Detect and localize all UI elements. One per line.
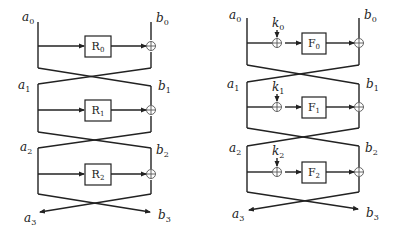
label-b3: b3: [366, 207, 379, 222]
round-label-r1: R1: [85, 105, 111, 118]
xor-icon: [355, 168, 364, 177]
label-b0: b0: [156, 12, 169, 27]
round-label-f1: F1: [301, 102, 327, 115]
key-label-k1: k1: [272, 81, 284, 96]
key-label-k0: k0: [272, 17, 284, 32]
label-a3: a3: [24, 212, 36, 227]
feistel-diagrams: [0, 0, 394, 234]
xor-icon: [147, 106, 156, 115]
round-label-r2: R2: [85, 169, 111, 182]
xor-icon: [273, 103, 282, 112]
xor-icon: [355, 103, 364, 112]
label-a0: a0: [229, 9, 241, 24]
label-b2: b2: [156, 144, 169, 159]
label-b2: b2: [365, 142, 378, 157]
label-a2: a2: [20, 141, 32, 156]
round-label-f0: F0: [301, 38, 327, 51]
label-a3: a3: [232, 208, 244, 223]
label-a1: a1: [227, 78, 239, 93]
xor-icon: [273, 39, 282, 48]
xor-icon: [147, 42, 156, 51]
round-label-r0: R0: [85, 41, 111, 54]
label-a2: a2: [229, 142, 241, 157]
xor-icon: [355, 39, 364, 48]
label-a0: a0: [22, 11, 34, 26]
xor-icon: [147, 170, 156, 179]
round-label-f2: F2: [301, 167, 327, 180]
label-b3: b3: [158, 209, 171, 224]
label-a1: a1: [18, 79, 30, 94]
xor-icon: [273, 168, 282, 177]
label-b1: b1: [158, 80, 171, 95]
label-b0: b0: [364, 9, 377, 24]
label-b1: b1: [366, 78, 379, 93]
key-label-k2: k2: [272, 145, 284, 160]
